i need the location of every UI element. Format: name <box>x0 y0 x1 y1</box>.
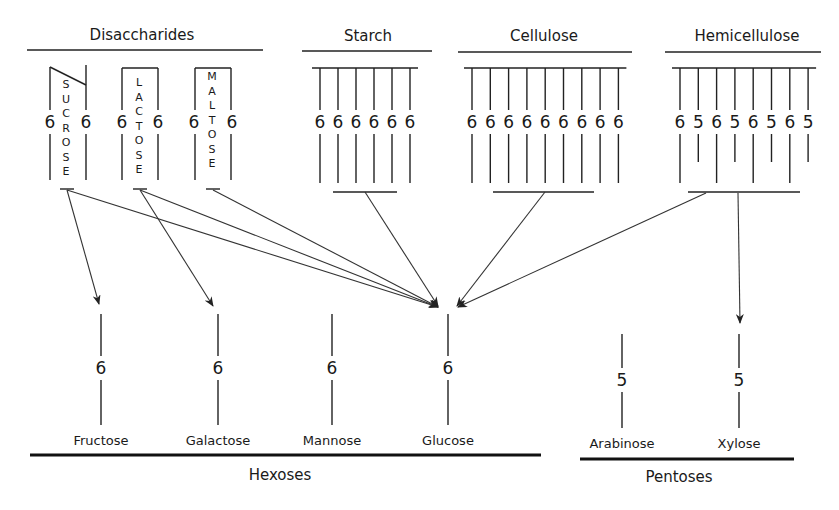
arrow-cellulose-to-glucose <box>457 192 545 306</box>
label-letter: E <box>209 157 216 170</box>
label-letter: O <box>135 134 144 147</box>
sucrose-structure: 6 6 SUCROSE <box>45 65 92 189</box>
monosaccharide-fructose: 6Fructose <box>73 314 128 448</box>
monosaccharide-xylose: 5Xylose <box>718 334 761 451</box>
label-letter: S <box>136 149 143 162</box>
maltose-structure: 6 6 MALTOSE <box>189 68 238 189</box>
label-letter: T <box>135 120 143 133</box>
monomer-carbon-count: 6 <box>613 112 624 132</box>
sugar-name: Xylose <box>718 436 761 451</box>
monomer-carbon-count: 5 <box>803 112 814 132</box>
arrows <box>67 190 740 323</box>
lactose-label: LACTOSE <box>135 76 144 176</box>
arrow-starch-to-glucose <box>365 192 438 306</box>
label-letter: S <box>63 151 70 164</box>
label-letter: M <box>207 70 217 83</box>
cellulose-title: Cellulose <box>510 27 578 45</box>
label-letter: T <box>208 114 216 127</box>
label-letter: C <box>62 107 70 120</box>
sucrose-left-carbon: 6 <box>45 112 56 132</box>
starch-title: Starch <box>344 27 392 45</box>
carbon-count: 6 <box>443 358 454 378</box>
arrow-lactose-to-galactose <box>140 190 213 306</box>
hemicellulose-group: Hemicellulose 65656565 <box>665 27 821 192</box>
sucrose-right-carbon: 6 <box>81 112 92 132</box>
sugar-name: Galactose <box>186 433 251 448</box>
carbohydrate-hydrolysis-diagram: Disaccharides 6 6 SUCROSE 6 6 LACTOSE <box>0 0 839 510</box>
monomer-carbon-count: 6 <box>405 112 416 132</box>
carbon-count: 6 <box>327 358 338 378</box>
sugar-name: Arabinose <box>589 436 654 451</box>
monomer-carbon-count: 5 <box>693 112 704 132</box>
disaccharides-title: Disaccharides <box>90 26 195 44</box>
sugar-name: Glucose <box>422 433 474 448</box>
sugar-name: Fructose <box>73 433 128 448</box>
sucrose-label: SUCROSE <box>62 78 71 178</box>
monomer-carbon-count: 6 <box>369 112 380 132</box>
label-letter: A <box>135 91 143 104</box>
maltose-left-carbon: 6 <box>189 112 200 132</box>
monomer-carbon-count: 6 <box>576 112 587 132</box>
monosaccharide-arabinose: 5Arabinose <box>589 334 654 451</box>
monomer-carbon-count: 6 <box>503 112 514 132</box>
monomer-carbon-count: 6 <box>351 112 362 132</box>
sugar-name: Mannose <box>303 433 361 448</box>
disaccharides-group: Disaccharides 6 6 SUCROSE 6 6 LACTOSE <box>27 26 263 189</box>
arrow-sucrose-to-glucose <box>67 190 438 307</box>
monomer-carbon-count: 6 <box>315 112 326 132</box>
lactose-right-carbon: 6 <box>153 112 164 132</box>
label-letter: S <box>63 78 70 91</box>
arrow-hemicellulose-to-glucose <box>458 193 706 307</box>
maltose-label: MALTOSE <box>207 70 217 170</box>
label-letter: S <box>209 143 216 156</box>
lactose-left-carbon: 6 <box>117 112 128 132</box>
label-letter: L <box>136 76 143 89</box>
label-letter: L <box>209 99 216 112</box>
label-letter: E <box>136 163 143 176</box>
carbon-count: 5 <box>734 370 745 390</box>
arrow-sucrose-to-fructose <box>67 190 99 304</box>
label-letter: C <box>135 105 143 118</box>
monomer-carbon-count: 6 <box>711 112 722 132</box>
monomer-carbon-count: 6 <box>467 112 478 132</box>
monosaccharide-mannose: 6Mannose <box>303 314 361 448</box>
monomer-carbon-count: 6 <box>485 112 496 132</box>
pentoses-label: Pentoses <box>645 468 712 486</box>
arrow-lactose-to-glucose <box>140 190 438 307</box>
monosaccharide-glucose: 6Glucose <box>422 314 474 448</box>
hemicellulose-title: Hemicellulose <box>695 27 800 45</box>
monomer-carbon-count: 6 <box>387 112 398 132</box>
cellulose-group: Cellulose 666666666 <box>458 27 632 192</box>
monomer-carbon-count: 6 <box>595 112 606 132</box>
label-letter: A <box>208 85 216 98</box>
lactose-structure: 6 6 LACTOSE <box>117 68 164 189</box>
monomer-carbon-count: 6 <box>675 112 686 132</box>
hexoses-label: Hexoses <box>249 466 312 484</box>
label-letter: E <box>63 165 70 178</box>
arrow-maltose-to-glucose <box>213 190 438 307</box>
monomer-carbon-count: 6 <box>784 112 795 132</box>
label-letter: R <box>62 122 70 135</box>
monomer-carbon-count: 6 <box>540 112 551 132</box>
starch-group: Starch 666666 <box>302 27 432 192</box>
carbon-count: 5 <box>617 370 628 390</box>
monomer-carbon-count: 6 <box>333 112 344 132</box>
arrow-hemicellulose-to-xylose <box>738 193 740 323</box>
maltose-right-carbon: 6 <box>227 112 238 132</box>
monomer-carbon-count: 6 <box>521 112 532 132</box>
carbon-count: 6 <box>96 358 107 378</box>
monosaccharides-group: 6Fructose6Galactose6Mannose6Glucose5Arab… <box>73 314 760 451</box>
monomer-carbon-count: 5 <box>729 112 740 132</box>
label-letter: O <box>208 128 217 141</box>
monosaccharide-galactose: 6Galactose <box>186 314 251 448</box>
label-letter: U <box>62 93 70 106</box>
monomer-carbon-count: 6 <box>748 112 759 132</box>
carbon-count: 6 <box>213 358 224 378</box>
monomer-carbon-count: 5 <box>766 112 777 132</box>
label-letter: O <box>62 136 71 149</box>
monomer-carbon-count: 6 <box>558 112 569 132</box>
